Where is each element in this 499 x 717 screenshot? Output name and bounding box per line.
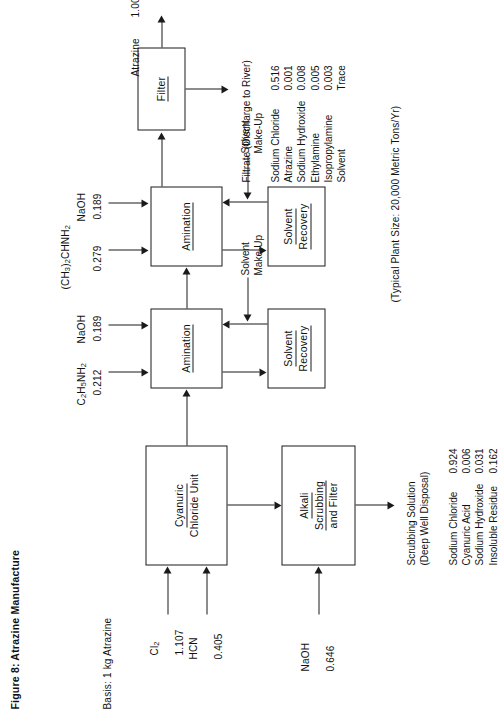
line-cyanuric-to-alkali bbox=[227, 504, 274, 505]
line-amination2-to-recovery2 bbox=[222, 249, 259, 250]
list-item: Isopropylamine0.003 bbox=[321, 65, 334, 182]
list-item: Sodium Hydroxide0.008 bbox=[294, 65, 307, 182]
list-item: SolventTrace bbox=[334, 65, 347, 182]
feed-line-naoh-am1 bbox=[108, 324, 142, 325]
unit-amination-2: Amination bbox=[150, 186, 222, 266]
feed-arrow-solvent-makeup2 bbox=[243, 192, 251, 199]
list-item: Sodium Chloride0.516 bbox=[268, 65, 281, 182]
feed-value-naoh-am2: 0.189 bbox=[90, 193, 103, 219]
feed-value-naoh-scrub: 0.646 bbox=[323, 645, 336, 671]
unit-alkali-scrubbing-and-filter: Alkali Scrubbing and Filter bbox=[281, 445, 355, 565]
unit-filter-label: Filter bbox=[154, 76, 169, 101]
line-filter-to-atrazine bbox=[161, 21, 162, 47]
arrow-filter-to-atrazine bbox=[157, 15, 165, 22]
filtrate-title: Filtrate (Discharge to River) bbox=[239, 60, 252, 182]
unit-amination-2-label: Amination bbox=[179, 202, 194, 251]
arrow-alkali-to-scrubbing-solution bbox=[387, 501, 394, 509]
arrow-filter-to-filtrate bbox=[221, 85, 228, 93]
unit-cyanuric-chloride-line2: Chloride Unit bbox=[187, 473, 200, 536]
feed-arrow-ethylamine bbox=[141, 368, 148, 376]
unit-solvent-recovery-2-line2: Recovery bbox=[296, 203, 311, 249]
arrow-cyanuric-to-amination1 bbox=[182, 389, 190, 396]
scrubbing-row-2-name: Sodium Hydroxide bbox=[472, 473, 485, 565]
feed-line-hcn bbox=[206, 572, 207, 614]
feed-line-naoh-am2 bbox=[108, 202, 142, 203]
feed-value-ethylamine: 0.212 bbox=[90, 369, 103, 395]
scrubbing-row-2-value: 0.031 bbox=[472, 448, 485, 473]
feed-label-ethylamine: C2H5NH2 bbox=[74, 362, 88, 405]
arrow-amination2-to-recovery2 bbox=[259, 246, 266, 254]
feed-line-isopropylamine bbox=[108, 249, 142, 250]
feed-label-solvent-makeup1: Solvent Make-Up bbox=[238, 234, 264, 275]
feed-label-hcn: HCN bbox=[186, 637, 199, 659]
scrubbing-solution-title-line1: Scrubbing Solution bbox=[404, 471, 417, 565]
list-item: Cyanuric Acid0.006 bbox=[459, 448, 472, 565]
filtrate-list: Sodium Chloride0.516 Atrazine0.001 Sodiu… bbox=[268, 65, 347, 182]
scrubbing-row-0-name: Sodium Chloride bbox=[446, 473, 459, 565]
filtrate-row-1-value: 0.001 bbox=[281, 65, 294, 90]
arrow-cyanuric-to-alkali bbox=[274, 501, 281, 509]
feed-value-cl2: 1.107 bbox=[172, 629, 185, 655]
unit-solvent-recovery-2-line1: Solvent bbox=[281, 208, 296, 244]
filtrate-row-2-name: Sodium Hydroxide bbox=[294, 90, 307, 182]
line-alkali-to-scrubbing-solution bbox=[355, 504, 388, 505]
filtrate-row-4-value: 0.003 bbox=[321, 65, 334, 90]
feed-line-ethylamine bbox=[108, 371, 142, 372]
feed-value-naoh-am1: 0.189 bbox=[90, 315, 103, 341]
feed-label-isopropylamine: (CH3)2CHNH2 bbox=[58, 224, 72, 289]
scrubbing-row-3-value: 0.162 bbox=[486, 448, 499, 473]
filtrate-title-line1: Filtrate (Discharge to River) bbox=[239, 60, 252, 182]
filtrate-row-2-value: 0.008 bbox=[294, 65, 307, 90]
arrow-amination1-to-amination2 bbox=[182, 267, 190, 274]
unit-solvent-recovery-2: Solvent Recovery bbox=[267, 186, 325, 266]
unit-filter: Filter bbox=[137, 47, 185, 130]
arrow-recovery1-to-amination1 bbox=[222, 320, 229, 328]
scrubbing-row-1-name: Cyanuric Acid bbox=[459, 473, 472, 565]
feed-arrow-isopropylamine bbox=[141, 246, 148, 254]
list-item: Atrazine0.001 bbox=[281, 65, 294, 182]
scrubbing-row-1-value: 0.006 bbox=[459, 448, 472, 473]
feed-label-naoh-am2: NaOH bbox=[74, 192, 87, 221]
feed-label-naoh-am1: NaOH bbox=[74, 314, 87, 343]
feed-line-cl2 bbox=[167, 572, 168, 614]
feed-arrow-cl2 bbox=[163, 566, 171, 573]
solvent-makeup1-line1: Solvent bbox=[238, 234, 251, 275]
arrow-recovery2-to-amination2 bbox=[222, 198, 229, 206]
filtrate-row-5-name: Solvent bbox=[334, 90, 347, 182]
filtrate-row-0-name: Sodium Chloride bbox=[268, 90, 281, 182]
filtrate-row-0-value: 0.516 bbox=[268, 65, 281, 90]
list-item: Sodium Hydroxide0.031 bbox=[472, 448, 485, 565]
line-recovery1-to-amination1 bbox=[229, 323, 267, 324]
unit-solvent-recovery-1-line2: Recovery bbox=[296, 325, 311, 371]
feed-line-solvent-makeup1 bbox=[247, 277, 248, 315]
line-amination2-to-filter bbox=[161, 138, 162, 186]
product-label-atrazine: Atrazine bbox=[128, 38, 141, 76]
filtrate-row-4-name: Isopropylamine bbox=[321, 90, 334, 182]
plant-size-footnote: (Typical Plant Size: 20,000 Metric Tons/… bbox=[388, 105, 401, 302]
unit-solvent-recovery-1-line1: Solvent bbox=[281, 330, 296, 366]
feed-arrow-naoh-am2 bbox=[141, 199, 148, 207]
filtrate-row-3-value: 0.005 bbox=[308, 65, 321, 90]
line-recovery2-to-amination2 bbox=[229, 201, 267, 202]
filtrate-row-5-value: Trace bbox=[334, 65, 347, 90]
feed-line-naoh-scrub bbox=[318, 572, 319, 614]
feed-label-cl2: Cl2 bbox=[147, 641, 161, 655]
filtrate-row-1-name: Atrazine bbox=[281, 90, 294, 182]
line-amination1-to-amination2 bbox=[186, 273, 187, 308]
product-value-atrazine: 1.00 bbox=[128, 0, 141, 17]
feed-value-hcn: 0.405 bbox=[211, 633, 224, 659]
scrubbing-solution-title: Scrubbing Solution (Deep Well Disposal) bbox=[404, 471, 430, 565]
arrow-amination1-to-recovery1 bbox=[259, 368, 266, 376]
feed-value-isopropylamine: 0.279 bbox=[90, 245, 103, 271]
feed-arrow-naoh-am1 bbox=[141, 321, 148, 329]
line-filter-to-filtrate bbox=[185, 88, 222, 89]
line-cyanuric-to-amination1 bbox=[186, 395, 187, 445]
feed-arrow-hcn bbox=[202, 566, 210, 573]
unit-amination-1-label: Amination bbox=[179, 324, 194, 373]
scrubbing-row-0-value: 0.924 bbox=[446, 448, 459, 473]
figure-title: Figure 8: Atrazine Manufacture bbox=[8, 549, 22, 709]
unit-alkali-line2: Scrubbing bbox=[312, 480, 327, 529]
arrow-amination2-to-filter bbox=[157, 132, 165, 139]
unit-alkali-line3: and Filter bbox=[326, 482, 339, 528]
